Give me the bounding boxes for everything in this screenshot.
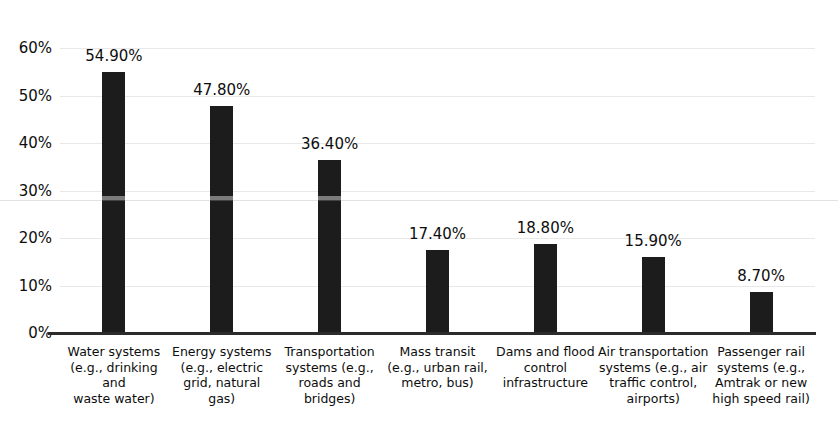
bar-value-label: 54.90% — [60, 48, 168, 64]
x-axis-category-label: Water systems(e.g., drinking andwaste wa… — [57, 344, 171, 406]
x-axis-category-line: grid, natural — [165, 375, 279, 391]
bar-value-label: 8.70% — [707, 268, 815, 284]
bar-value-label: 17.40% — [384, 226, 492, 242]
x-axis-category-line: Mass transit — [381, 344, 495, 360]
x-axis-category-line: waste water) — [57, 391, 171, 407]
bar — [534, 244, 557, 333]
y-axis-tick-label: 40% — [0, 136, 52, 151]
x-axis-category-line: (e.g., urban rail, — [381, 360, 495, 376]
x-axis-category-line: bridges) — [273, 391, 387, 407]
y-axis-tick-label: 30% — [0, 184, 52, 199]
x-axis-category-line: infrastructure — [488, 375, 602, 391]
x-axis-category-label: Mass transit(e.g., urban rail,metro, bus… — [381, 344, 495, 391]
x-axis-category-line: (e.g., electric — [165, 360, 279, 376]
bar-chart: 60%50%40%30%20%10%0% Water systems(e.g.,… — [0, 0, 838, 437]
x-axis-category-line: systems (e.g., — [704, 360, 818, 376]
gridline — [60, 191, 815, 192]
x-axis-category-line: Air transportation — [596, 344, 710, 360]
y-axis-tick-label: 60% — [0, 41, 52, 56]
x-axis-category-line: (e.g., drinking and — [57, 360, 171, 391]
x-axis-category-line: Energy systems — [165, 344, 279, 360]
x-axis-line — [48, 332, 816, 335]
x-axis-category-line: control — [488, 360, 602, 376]
x-axis-category-line: Transportation — [273, 344, 387, 360]
bar — [102, 72, 125, 333]
gridline — [60, 143, 815, 144]
x-axis-category-line: airports) — [596, 391, 710, 407]
x-axis-category-label: Air transportationsystems (e.g., airtraf… — [596, 344, 710, 406]
bar-value-label: 15.90% — [599, 233, 707, 249]
bar-value-label: 47.80% — [168, 82, 276, 98]
y-axis-tick-label: 20% — [0, 231, 52, 246]
x-axis-category-line: gas) — [165, 391, 279, 407]
x-axis-category-label: Transportationsystems (e.g.,roads andbri… — [273, 344, 387, 406]
x-axis-category-line: Passenger rail — [704, 344, 818, 360]
x-axis-category-line: roads and — [273, 375, 387, 391]
bar-value-label: 18.80% — [491, 220, 599, 236]
bar — [642, 257, 665, 333]
bar-value-label: 36.40% — [276, 136, 384, 152]
x-axis-category-line: metro, bus) — [381, 375, 495, 391]
x-axis-category-line: systems (e.g., air — [596, 360, 710, 376]
y-axis-tick-label: 0% — [0, 326, 52, 341]
bar — [210, 106, 233, 333]
x-axis-category-line: systems (e.g., — [273, 360, 387, 376]
chart-title — [0, 0, 838, 7]
x-axis-category-line: high speed rail) — [704, 391, 818, 407]
gridline — [60, 48, 815, 49]
y-axis-tick-label: 50% — [0, 89, 52, 104]
x-axis-category-line: Amtrak or new — [704, 375, 818, 391]
x-axis-category-label: Energy systems(e.g., electricgrid, natur… — [165, 344, 279, 406]
bar — [750, 292, 773, 333]
y-axis-tick-label: 10% — [0, 279, 52, 294]
x-axis-category-line: Dams and flood — [488, 344, 602, 360]
x-axis-category-line: traffic control, — [596, 375, 710, 391]
x-axis-category-label: Passenger railsystems (e.g.,Amtrak or ne… — [704, 344, 818, 406]
x-axis-category-line: Water systems — [57, 344, 171, 360]
bar — [318, 160, 341, 333]
bar — [426, 250, 449, 333]
x-axis-category-label: Dams and floodcontrolinfrastructure — [488, 344, 602, 391]
